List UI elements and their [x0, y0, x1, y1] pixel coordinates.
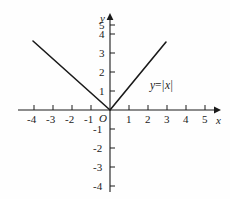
- y-tick-label-4: 4: [99, 29, 105, 40]
- x-axis-arrowhead: [214, 107, 221, 114]
- y-axis-arrowhead: [107, 13, 114, 20]
- x-tick-label-4: 4: [183, 114, 189, 125]
- y-tick-label-3: 3: [99, 48, 105, 59]
- x-tick-label-neg-1: -1: [84, 114, 93, 125]
- y-tick-label-neg-1: -1: [93, 124, 102, 135]
- x-tick-label-neg-3: -3: [46, 114, 55, 125]
- y-axis-label: y: [100, 13, 105, 24]
- x-tick-label-5: 5: [202, 114, 208, 125]
- y-tick-label-1: 1: [99, 86, 105, 97]
- y-tick-label-2: 2: [99, 67, 105, 78]
- x-axis-label: x: [216, 115, 221, 126]
- x-tick-label-3: 3: [164, 114, 170, 125]
- equation-operator: =: [155, 79, 162, 91]
- equation-annotation: y=|x|: [150, 80, 173, 92]
- x-axis-ticks-positive: [129, 105, 205, 110]
- x-tick-label-1: 1: [126, 114, 132, 125]
- equation-bar-right: |: [170, 79, 173, 91]
- origin-label: O: [99, 113, 107, 124]
- y-axis-ticks-positive: [110, 25, 115, 91]
- graph-figure: -4 -3 -2 -1 1 2 3 4 5 5 4 3 2 1 -1 -2 -3…: [0, 0, 230, 199]
- x-tick-label-neg-4: -4: [27, 114, 36, 125]
- y-tick-label-neg-2: -2: [93, 143, 102, 154]
- x-tick-label-2: 2: [145, 114, 151, 125]
- x-axis-ticks-negative: [34, 105, 91, 110]
- y-tick-label-neg-4: -4: [93, 181, 102, 192]
- y-tick-label-neg-3: -3: [93, 162, 102, 173]
- x-tick-label-neg-2: -2: [65, 114, 74, 125]
- plot-canvas: [0, 0, 230, 199]
- y-axis-ticks-negative: [110, 129, 115, 186]
